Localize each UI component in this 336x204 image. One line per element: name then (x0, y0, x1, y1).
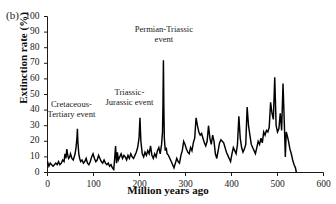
y-tick-label: 30 (18, 121, 40, 130)
annotation-line: Permian-Triassic (121, 24, 207, 34)
annotation-line: Triassic- (86, 87, 172, 97)
x-tick-label: 500 (263, 179, 293, 189)
x-tick-label: 300 (171, 179, 201, 189)
x-tick-label: 600 (309, 179, 336, 189)
annotation-line: Tertiary event (28, 109, 114, 119)
y-tick-label: 60 (18, 74, 40, 83)
y-tick-label: 90 (18, 27, 40, 36)
y-tick-label: 0 (18, 168, 40, 177)
annotation-tj: Triassic-Jurassic event (86, 87, 172, 107)
x-tick-label: 100 (79, 179, 109, 189)
y-tick-label: 50 (18, 90, 40, 99)
y-tick-label: 70 (18, 58, 40, 67)
y-tick-label: 20 (18, 136, 40, 145)
figure-panel-b: (b) Extinction rate (%) Million years ag… (0, 0, 336, 204)
y-tick-label: 10 (18, 152, 40, 161)
annotation-line: Jurassic event (86, 97, 172, 107)
x-tick-label: 400 (217, 179, 247, 189)
x-tick-label: 200 (125, 179, 155, 189)
annotation-line: event (121, 34, 207, 44)
y-tick-label: 100 (18, 12, 40, 21)
x-tick-label: 0 (33, 179, 63, 189)
annotation-pt: Permian-Triassicevent (121, 24, 207, 44)
y-tick-label: 80 (18, 43, 40, 52)
